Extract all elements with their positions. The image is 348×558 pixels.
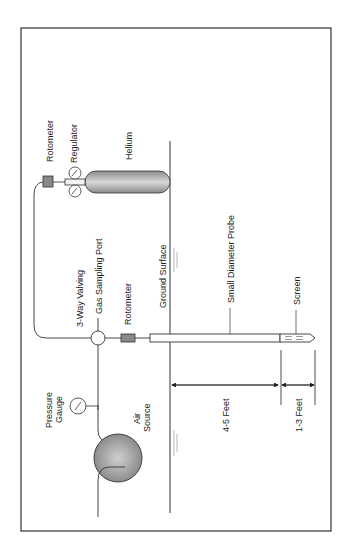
label-small-diameter-probe: Small Diameter Probe bbox=[226, 215, 236, 303]
screen-icon bbox=[280, 334, 315, 342]
label-ground-surface: Ground Surface bbox=[158, 244, 168, 308]
label-helium: Helium bbox=[124, 132, 134, 160]
label-pressure: Pressure bbox=[44, 392, 54, 428]
dimension-1-3-feet bbox=[281, 350, 315, 405]
diagram-frame bbox=[21, 28, 331, 531]
ground-hatch bbox=[174, 248, 177, 456]
pressure-gauge-icon bbox=[70, 398, 98, 414]
label-regulator: Regulator bbox=[69, 124, 79, 163]
label-4-5-feet: 4-5 Feet bbox=[221, 398, 231, 432]
regulator-icon bbox=[65, 167, 85, 197]
label-source: Source bbox=[142, 403, 152, 432]
air-source-sphere bbox=[94, 434, 142, 482]
label-rotometer-top: Rotometer bbox=[45, 120, 55, 162]
rotometer-top-icon bbox=[43, 176, 65, 187]
rotometer-mid-icon bbox=[121, 334, 135, 342]
label-rotometer-mid: Rotometer bbox=[123, 283, 133, 325]
small-diameter-probe bbox=[150, 334, 280, 342]
label-screen: Screen bbox=[292, 276, 302, 305]
label-3-way-valving: 3-Way Valving bbox=[75, 270, 85, 327]
helium-tank bbox=[85, 171, 170, 193]
label-air: Air bbox=[132, 413, 142, 424]
label-gauge: Gauge bbox=[54, 396, 64, 423]
label-gas-sampling-port: Gas Sampling Port bbox=[94, 238, 104, 314]
soil-gas-probe-diagram: Rotometer Regulator Helium 3-Way Valving… bbox=[0, 0, 348, 558]
label-1-3-feet: 1-3 Feet bbox=[294, 398, 304, 432]
three-way-valve-icon bbox=[91, 331, 105, 345]
